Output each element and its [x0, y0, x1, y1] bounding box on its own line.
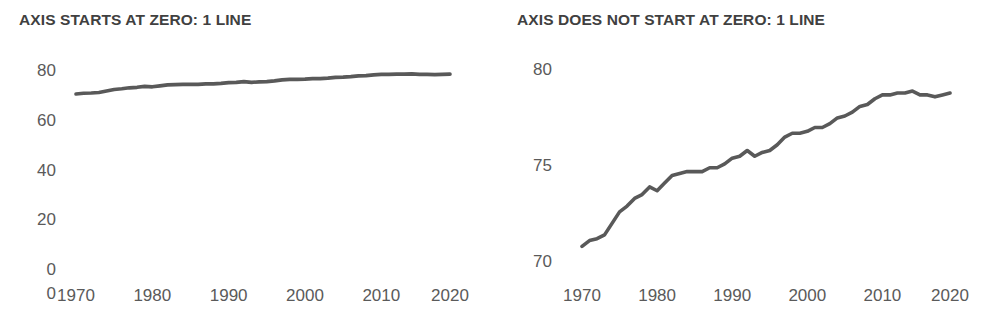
data-line-life-expectancy [582, 91, 950, 246]
chart-panel-axis-does-not-start-at-zero: AXIS DOES NOT START AT ZERO: 1 LINE 8075… [500, 0, 1000, 334]
chart-panel-axis-starts-at-zero: AXIS STARTS AT ZERO: 1 LINE 806040200 19… [0, 0, 500, 334]
line-series-right [500, 0, 1000, 334]
line-series-left [0, 0, 500, 334]
data-line-life-expectancy [76, 74, 450, 94]
